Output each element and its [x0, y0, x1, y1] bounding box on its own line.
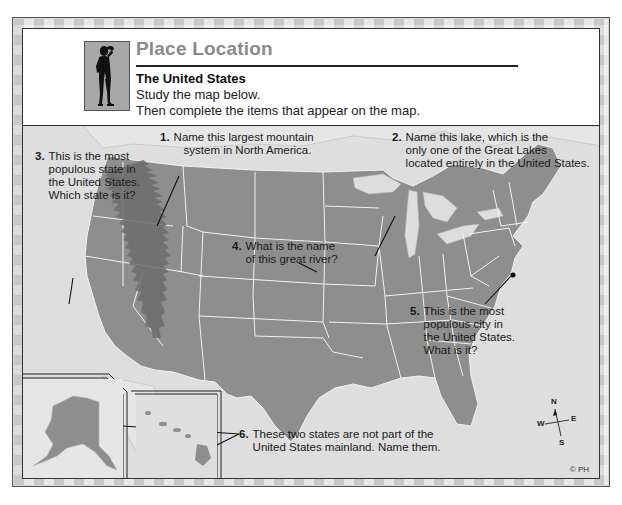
copyright: © PH — [570, 465, 589, 474]
compass-north-label: N — [551, 397, 557, 406]
question-3: 3.This is the mostpopulous state inthe U… — [35, 150, 140, 202]
question-text: United States mainland. Name them. — [253, 441, 441, 453]
instruction-line: Then complete the items that appear on t… — [136, 103, 420, 118]
question-text: Which state is it? — [49, 189, 136, 201]
question-number: 5. — [410, 305, 420, 317]
question-text: This is the most — [49, 150, 130, 162]
question-text: located entirely in the United States. — [406, 157, 590, 169]
question-2: 2.Name this lake, which is theonly one o… — [392, 131, 590, 170]
us-map: 1.Name this largest mountainsystem in No… — [23, 126, 600, 479]
header: Place Location The United States Study t… — [23, 29, 599, 126]
question-number: 3. — [35, 150, 45, 162]
question-text: This is the most — [424, 305, 505, 317]
person-looking-icon — [84, 41, 130, 111]
question-number: 4. — [232, 240, 242, 252]
question-text: populous city in — [424, 318, 503, 330]
compass-south-label: S — [559, 438, 564, 447]
question-text: the United States. — [424, 331, 515, 343]
question-5: 5.This is the mostpopulous city inthe Un… — [410, 305, 515, 357]
question-text: of this great river? — [246, 253, 338, 265]
subtitle: The United States — [136, 71, 246, 86]
question-text: What is it? — [424, 344, 478, 356]
compass-west-label: W — [537, 419, 545, 428]
instruction-line: Study the map below. — [136, 87, 260, 102]
compass-east-label: E — [571, 414, 576, 423]
question-6: 6.These two states are not part of theUn… — [239, 428, 441, 454]
question-number: 1. — [160, 131, 170, 143]
title-divider — [136, 65, 518, 67]
question-text: only one of the Great Lakes — [406, 144, 547, 156]
question-text: Name this largest mountain — [174, 131, 314, 143]
question-text: system in North America. — [174, 144, 312, 156]
question-4: 4.What is the nameof this great river? — [232, 240, 338, 266]
question-number: 6. — [239, 428, 249, 440]
question-text: Name this lake, which is the — [406, 131, 549, 143]
question-text: the United States. — [49, 176, 140, 188]
question-text: These two states are not part of the — [253, 428, 434, 440]
question-text: What is the name — [246, 240, 335, 252]
question-number: 2. — [392, 131, 402, 143]
question-text: populous state in — [49, 163, 136, 175]
page-title: Place Location — [136, 38, 273, 60]
worksheet-panel: Place Location The United States Study t… — [22, 28, 600, 479]
question-1: 1.Name this largest mountainsystem in No… — [160, 131, 314, 157]
